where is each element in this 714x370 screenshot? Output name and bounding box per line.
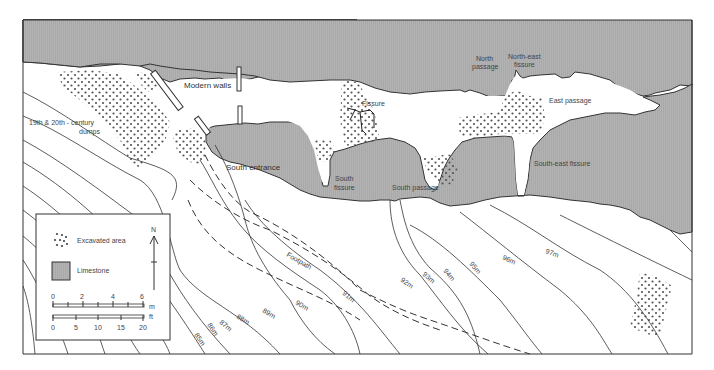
contour-label-94: 94m bbox=[442, 267, 456, 282]
label-fissure: Fissure bbox=[362, 100, 385, 107]
scale-ft-unit: ft bbox=[149, 313, 153, 320]
scale-ft-tick-5: 5 bbox=[74, 324, 78, 331]
scale-m-tick-6: 6 bbox=[140, 293, 144, 300]
scale-ft-tick-10: 10 bbox=[94, 324, 102, 331]
cave-site-plan: Excavated area Limestone N 0 2 4 6 m bbox=[0, 0, 714, 370]
contour-label-88: 88m bbox=[236, 313, 251, 326]
north-label: N bbox=[151, 226, 156, 233]
legend-limestone-label: Limestone bbox=[77, 267, 109, 274]
contour-label-93: 93m bbox=[421, 270, 436, 284]
limestone-swatch bbox=[52, 262, 70, 280]
label-northeast-fissure-2: fissure bbox=[514, 61, 535, 68]
scale-ft-tick-0: 0 bbox=[51, 324, 55, 331]
label-south-passage: South passage bbox=[392, 184, 439, 192]
contour-label-91: 91m bbox=[341, 289, 356, 303]
label-east-passage: East passage bbox=[549, 97, 592, 105]
excavated-area-south-passage bbox=[422, 154, 458, 186]
label-north-passage-2: passage bbox=[472, 63, 499, 71]
label-southeast-fissure: South-east fissure bbox=[534, 160, 591, 167]
label-dumps-1: 19th & 20th - century bbox=[29, 119, 94, 127]
label-northeast-fissure-1: North-east bbox=[508, 53, 541, 60]
scale-m-tick-0: 0 bbox=[51, 293, 55, 300]
scale-ft-tick-15: 15 bbox=[117, 324, 125, 331]
contour-label-95: 95m bbox=[468, 260, 482, 275]
contour-label-92: 92m bbox=[399, 276, 414, 290]
label-south-fissure-1: South bbox=[335, 175, 353, 182]
label-dumps-2: dumps bbox=[79, 128, 101, 136]
excavated-area-entrance bbox=[173, 128, 206, 165]
contour-label-90: 90m bbox=[295, 299, 310, 312]
label-south-fissure-2: fissure bbox=[334, 184, 355, 191]
contour-label-97: 97m bbox=[545, 247, 560, 258]
legend-excavated-label: Excavated area bbox=[77, 237, 126, 244]
scale-m-unit: m bbox=[149, 303, 155, 310]
contour-label-89: 89m bbox=[262, 307, 277, 320]
label-south-entrance: South entrance bbox=[226, 163, 281, 172]
label-north-passage-1: North bbox=[476, 55, 493, 62]
contour-label-87: 87m bbox=[218, 318, 233, 332]
scale-m-tick-4: 4 bbox=[111, 293, 115, 300]
legend: Excavated area Limestone N 0 2 4 6 m bbox=[36, 214, 170, 340]
scale-ft-tick-20: 20 bbox=[139, 324, 147, 331]
scale-m-tick-2: 2 bbox=[80, 293, 84, 300]
label-modern-walls: Modern walls bbox=[184, 81, 231, 90]
